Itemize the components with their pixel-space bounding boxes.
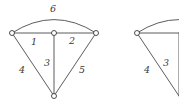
edge-6-arc-cropped (137, 20, 179, 34)
edge-label-1: 1 (31, 36, 37, 47)
edge-label-3-cropped: 3 (163, 57, 169, 68)
graph-diagram-svg: 6 1 2 3 4 5 4 3 (0, 0, 179, 105)
edge-label-3: 3 (44, 57, 50, 68)
left-fan-graph: 6 1 2 3 4 5 (10, 3, 99, 99)
right-fan-graph-cropped: 4 3 (135, 20, 180, 97)
edge-label-6: 6 (50, 3, 56, 14)
edge-label-4-cropped: 4 (143, 64, 150, 75)
figure-canvas: 6 1 2 3 4 5 4 3 (0, 0, 179, 105)
edge-label-4: 4 (18, 64, 25, 75)
edge-label-2: 2 (68, 35, 75, 46)
vertex-left-cropped (135, 31, 140, 36)
vertex-apex (52, 94, 57, 99)
vertex-right (94, 31, 99, 36)
vertex-middle (52, 31, 57, 36)
edge-label-5: 5 (79, 64, 85, 75)
vertex-left (10, 31, 15, 36)
